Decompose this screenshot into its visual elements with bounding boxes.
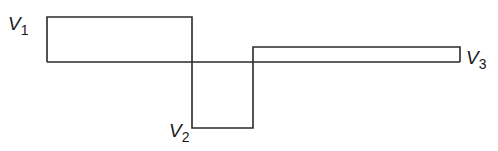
pulse-v1 bbox=[47, 17, 192, 62]
label-v2: V2 bbox=[169, 120, 190, 145]
label-v1: V1 bbox=[8, 13, 29, 38]
label-v3: V3 bbox=[466, 47, 487, 72]
pulse-v3 bbox=[253, 47, 460, 62]
waveform-diagram: V1 V2 V3 bbox=[0, 0, 498, 151]
pulse-v2 bbox=[192, 62, 253, 128]
